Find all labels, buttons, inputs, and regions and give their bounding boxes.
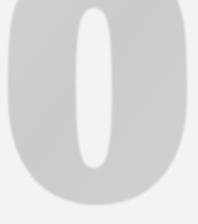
- image-canvas: 0: [0, 0, 198, 224]
- numeral-zero-glyph: [0, 0, 198, 224]
- zero-outer-with-counter: [8, 0, 187, 205]
